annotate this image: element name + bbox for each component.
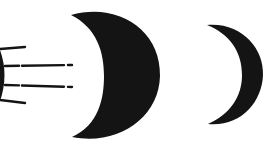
ray-upper-dashed (5, 65, 72, 66)
moon-phases-diagram (0, 0, 278, 149)
diagram-canvas (0, 0, 278, 149)
